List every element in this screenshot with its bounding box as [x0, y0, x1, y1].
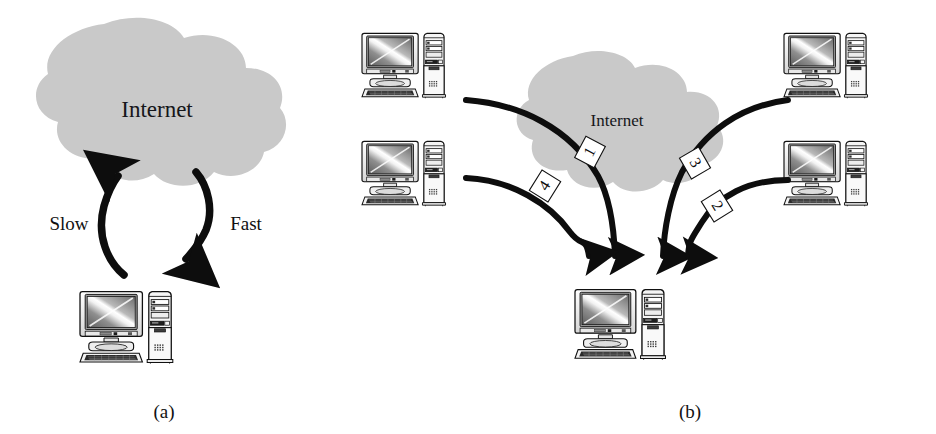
panel-b-caption: (b): [679, 401, 701, 423]
internet-cloud-a-label: Internet: [121, 97, 193, 122]
panel-a: Internet Slow Fast (a): [36, 18, 286, 423]
server-computer-bottom-left: [362, 141, 446, 206]
slow-arrow: [101, 176, 124, 275]
slow-label: Slow: [49, 213, 88, 234]
stream-2: [688, 180, 788, 256]
server-computer-bottom-right: [784, 141, 868, 206]
client-computer-b: [575, 290, 665, 360]
figure-root: Internet Slow Fast (a) Internet: [0, 0, 936, 434]
server-computer-top-left: [362, 33, 446, 98]
stream-4: [466, 178, 589, 256]
panel-a-caption: (a): [153, 401, 174, 423]
panel-b: Internet: [362, 33, 868, 423]
internet-cloud-b-label: Internet: [591, 111, 644, 130]
server-computer-top-right: [784, 33, 868, 98]
fast-label: Fast: [230, 213, 262, 234]
client-computer-a: [80, 292, 173, 364]
